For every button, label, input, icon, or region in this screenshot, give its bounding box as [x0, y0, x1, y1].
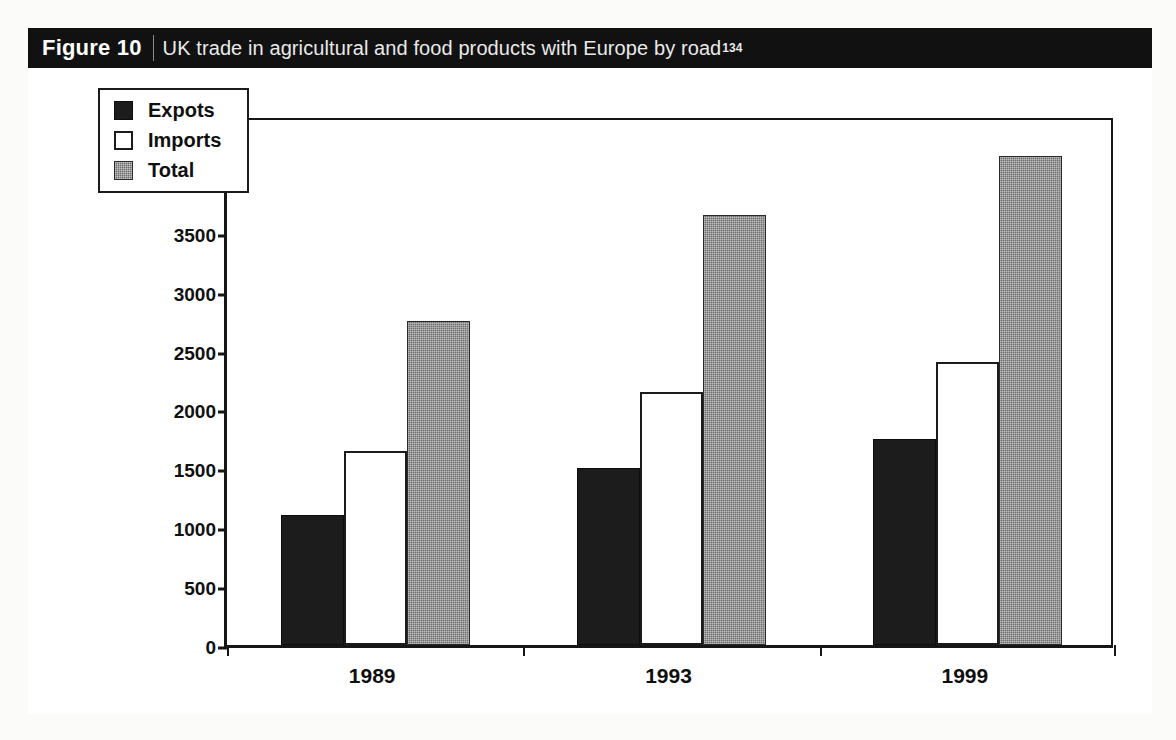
chart-legend: Expots Imports Total	[98, 88, 249, 193]
legend-item-total: Total	[114, 159, 221, 182]
bar-total-1999	[999, 156, 1062, 645]
x-axis-tick-mark	[820, 645, 822, 656]
chart-canvas: Tonne-kilometres (Million) 4500400035003…	[28, 68, 1152, 714]
bar-exports-1989	[281, 515, 344, 645]
bar-group	[281, 120, 470, 645]
x-axis-tick-label: 1999	[941, 664, 988, 688]
legend-label-imports: Imports	[148, 129, 221, 152]
legend-item-imports: Imports	[114, 129, 221, 152]
x-axis-tick-labels: 198919931999	[224, 664, 1113, 704]
figure-reference-superscript: 134	[722, 41, 742, 55]
bar-imports-1999	[936, 362, 999, 645]
x-axis-tick-label: 1989	[349, 664, 396, 688]
legend-swatch-total-icon	[114, 161, 133, 180]
bar-imports-1989	[344, 451, 407, 645]
bars-layer	[227, 120, 1111, 645]
caption-divider	[153, 35, 154, 61]
figure-container: Figure 10 UK trade in agricultural and f…	[0, 0, 1176, 740]
x-axis-tick-mark	[523, 645, 525, 656]
figure-number: Figure 10	[42, 35, 142, 61]
bar-imports-1993	[640, 392, 703, 645]
x-axis-tick-mark	[227, 645, 229, 656]
legend-swatch-imports-icon	[114, 131, 133, 150]
plot-area	[224, 118, 1113, 648]
legend-swatch-exports-icon	[114, 101, 133, 120]
x-axis-tick-label: 1993	[645, 664, 692, 688]
figure-caption-text: UK trade in agricultural and food produc…	[163, 37, 722, 60]
legend-item-exports: Expots	[114, 99, 221, 122]
figure-caption-band: Figure 10 UK trade in agricultural and f…	[28, 28, 1152, 68]
legend-label-exports: Expots	[148, 99, 215, 122]
x-axis-tick-mark	[1114, 645, 1116, 656]
y-axis-tick-marks	[28, 118, 228, 648]
bar-total-1993	[703, 215, 766, 645]
bar-exports-1993	[577, 468, 640, 645]
bar-group	[873, 120, 1062, 645]
bar-group	[577, 120, 766, 645]
bar-total-1989	[407, 321, 470, 645]
bar-exports-1999	[873, 439, 936, 645]
legend-label-total: Total	[148, 159, 194, 182]
